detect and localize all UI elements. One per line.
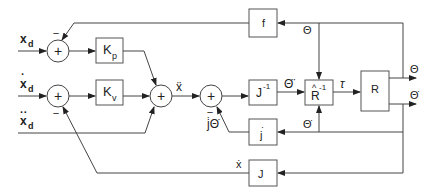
label-xd-dot: · x d bbox=[20, 68, 34, 94]
block-j-inverse: J -1 bbox=[249, 80, 277, 105]
svg-text:+: + bbox=[54, 88, 62, 104]
sum-junction-3: + bbox=[150, 85, 172, 107]
sum-junction-2: + − bbox=[47, 85, 69, 119]
svg-text:p: p bbox=[112, 51, 117, 61]
block-diagram: x d · x d ·· x d + − + − + + − K p K v bbox=[0, 0, 436, 195]
label-xd-ddot: ·· x d bbox=[20, 106, 34, 131]
svg-text:−: − bbox=[53, 27, 59, 39]
svg-text:-1: -1 bbox=[263, 82, 271, 91]
svg-text:-1: -1 bbox=[319, 83, 327, 92]
svg-text:J: J bbox=[256, 86, 262, 100]
label-theta-out: Θ bbox=[410, 63, 419, 75]
label-x-ddot: ẍ bbox=[176, 80, 182, 94]
svg-text:+: + bbox=[207, 88, 215, 104]
label-theta-ddot: Θ̈ bbox=[284, 77, 295, 91]
svg-text:x: x bbox=[20, 77, 27, 91]
label-theta-fb: Θ bbox=[303, 24, 312, 36]
block-r: R bbox=[361, 71, 389, 111]
input-xd-ddot-line bbox=[18, 107, 154, 133]
block-kp: K p bbox=[96, 38, 123, 63]
label-x-dot: ẋ bbox=[236, 158, 242, 170]
sum-junction-4: + − bbox=[200, 85, 222, 118]
block-f: f bbox=[249, 9, 277, 37]
label-theta-dot-fb: Θ̇ bbox=[303, 118, 313, 130]
svg-text:R: R bbox=[371, 83, 379, 95]
block-j: J bbox=[249, 160, 277, 186]
svg-text:K: K bbox=[103, 42, 112, 57]
label-xd: x d bbox=[20, 32, 34, 49]
svg-text:x: x bbox=[20, 32, 27, 46]
svg-text:d: d bbox=[28, 121, 34, 131]
svg-text:J: J bbox=[258, 168, 264, 180]
label-tau: τ bbox=[340, 77, 346, 91]
block-j-dot: · j bbox=[249, 119, 277, 145]
svg-text:x: x bbox=[20, 114, 27, 128]
svg-text:K: K bbox=[103, 84, 112, 99]
svg-text:d: d bbox=[28, 84, 34, 94]
svg-text:+: + bbox=[157, 88, 165, 104]
svg-text:−: − bbox=[53, 107, 59, 119]
label-theta-dot-out: Θ̇ bbox=[410, 89, 420, 101]
svg-text:+: + bbox=[54, 43, 62, 59]
sum-junction-1: + − bbox=[47, 27, 69, 62]
svg-text:v: v bbox=[112, 93, 117, 103]
block-kv: K v bbox=[96, 80, 123, 105]
svg-text:d: d bbox=[28, 39, 34, 49]
svg-text:j: j bbox=[259, 129, 262, 141]
block-r-hat-inverse: ^ R -1 bbox=[305, 80, 333, 105]
label-jdot-thetadot: j̇Θ̇ bbox=[206, 117, 220, 131]
